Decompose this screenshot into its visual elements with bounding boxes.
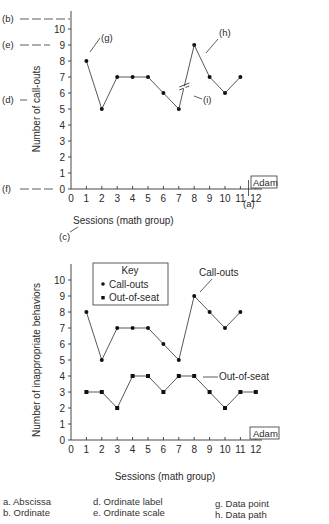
y-tick-label: 9: [59, 291, 65, 302]
data-point-circle: [208, 75, 212, 79]
data-point-square: [146, 374, 150, 378]
callout-b: (b): [2, 13, 14, 24]
x-tick-label: 1: [84, 193, 90, 204]
x-tick-label: 9: [207, 444, 213, 455]
data-path: [86, 296, 240, 360]
data-point-circle: [192, 294, 196, 298]
glossary-col-2: d. Ordinate label e. Ordinate scale: [93, 496, 165, 518]
data-path: [194, 45, 240, 93]
data-point-square: [254, 390, 258, 394]
data-path-pointer: [206, 39, 218, 53]
glossary-item-h: h. Data path: [215, 509, 269, 520]
y-tick-label: 8: [59, 307, 65, 318]
data-point-circle: [131, 75, 135, 79]
callout-a: (a): [243, 198, 255, 209]
data-point-square: [84, 390, 88, 394]
x-tick-label: 11: [235, 444, 246, 455]
x-tick-label: 8: [191, 193, 197, 204]
top-subject-label: Adam: [253, 177, 278, 188]
data-point-circle: [161, 342, 165, 346]
x-tick-label: 4: [130, 444, 136, 455]
glossary-item-b: b. Ordinate: [3, 507, 51, 518]
x-tick-label: 9: [207, 193, 213, 204]
x-tick-label: 5: [145, 193, 151, 204]
bottom-xlabel: Sessions (math group): [115, 471, 216, 482]
x-tick-label: 12: [250, 444, 262, 455]
y-tick-label: 5: [59, 104, 65, 115]
top-tick-labels: 0123456789100123456789101112: [54, 24, 262, 205]
data-point-circle: [238, 75, 242, 79]
y-tick-label: 10: [54, 275, 66, 286]
x-tick-label: 5: [145, 444, 151, 455]
data-point-circle: [208, 310, 212, 314]
data-point-square: [100, 390, 104, 394]
legend-circle-marker-icon: [101, 282, 105, 286]
data-point-circle: [131, 326, 135, 330]
x-tick-label: 7: [176, 444, 182, 455]
callout-h: (h): [219, 27, 231, 38]
bottom-ylabel: Number of inappropriate behaviors: [31, 283, 42, 437]
top-axes: [68, 11, 262, 189]
x-tick-label: 6: [161, 444, 167, 455]
path-break-pointer: [194, 96, 202, 99]
callout-g: (g): [101, 32, 113, 43]
y-tick-label: 10: [54, 24, 66, 35]
data-point-square: [131, 374, 135, 378]
data-point-circle: [161, 91, 165, 95]
top-data-path: [84, 43, 242, 111]
x-tick-label: 0: [68, 193, 74, 204]
data-point-square: [192, 374, 196, 378]
top-ylabel: Number of call-outs: [31, 66, 42, 153]
y-tick-label: 4: [59, 120, 65, 131]
y-tick-label: 8: [59, 56, 65, 67]
glossary: a. Abscissa b. Ordinate d. Ordinate labe…: [0, 494, 329, 524]
glossary-item-a: a. Abscissa: [3, 496, 51, 507]
figure: 0123456789100123456789101112 Number of c…: [0, 0, 329, 524]
callout-e: (e): [2, 39, 14, 50]
glossary-col-3: g. Data point h. Data path: [215, 498, 269, 520]
data-point-circle: [223, 91, 227, 95]
y-tick-label: 7: [59, 72, 65, 83]
y-tick-label: 2: [59, 152, 65, 163]
y-tick-label: 9: [59, 40, 65, 51]
top-xlabel: Sessions (math group): [73, 215, 174, 226]
y-tick-label: 0: [59, 435, 65, 446]
data-point-square: [223, 406, 227, 410]
data-point-square: [177, 374, 181, 378]
data-point-square: [208, 390, 212, 394]
legend-square-marker-icon: [101, 296, 104, 299]
y-tick-label: 3: [59, 136, 65, 147]
line-label-outofseat: Out-of-seat: [219, 371, 269, 382]
glossary-col-1: a. Abscissa b. Ordinate: [3, 496, 51, 518]
data-point-circle: [238, 310, 242, 314]
bottom-chart: 0123456789100123456789101112 Number of i…: [31, 263, 279, 482]
data-point-pointer: [90, 38, 100, 52]
y-tick-label: 6: [59, 339, 65, 350]
callout-c: (c): [59, 231, 70, 242]
data-point-circle: [146, 326, 150, 330]
data-point-circle: [115, 326, 119, 330]
x-tick-label: 8: [191, 444, 197, 455]
x-tick-label: 3: [114, 193, 120, 204]
data-point-circle: [115, 75, 119, 79]
legend: Key Call-outs Out-of-seat: [93, 263, 168, 305]
data-point-circle: [100, 107, 104, 111]
x-tick-label: 10: [219, 444, 231, 455]
x-tick-label: 1: [84, 444, 90, 455]
x-tick-label: 2: [99, 444, 105, 455]
y-tick-label: 1: [59, 168, 65, 179]
glossary-item-e: e. Ordinate scale: [93, 507, 165, 518]
glossary-item-g: g. Data point: [215, 498, 269, 509]
y-tick-label: 0: [59, 184, 65, 195]
data-point-circle: [223, 326, 227, 330]
data-point-circle: [84, 59, 88, 63]
glossary-item-d: d. Ordinate label: [93, 496, 165, 507]
legend-item-callouts: Call-outs: [109, 279, 148, 290]
callout-i: (i): [203, 94, 211, 105]
data-point-circle: [177, 358, 181, 362]
abscissa-label-pointer: [70, 227, 78, 232]
line-label-callouts: Call-outs: [199, 267, 238, 278]
bottom-data-paths: [84, 294, 257, 410]
x-tick-label: 6: [161, 193, 167, 204]
data-point-circle: [84, 310, 88, 314]
